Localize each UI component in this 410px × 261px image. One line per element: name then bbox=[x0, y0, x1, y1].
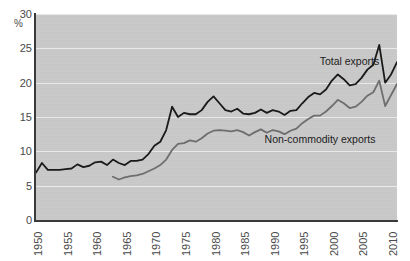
x-tick-label: 1970 bbox=[150, 232, 162, 256]
x-tick-label: 1960 bbox=[91, 232, 103, 256]
x-tick-label: 1955 bbox=[62, 232, 74, 256]
x-tick-label: 2005 bbox=[357, 232, 369, 256]
x-tick-label: 1975 bbox=[180, 232, 192, 256]
series-label: Non-commodity exports bbox=[265, 133, 376, 145]
x-tick-label: 2000 bbox=[328, 232, 340, 256]
x-tick-label: 1980 bbox=[210, 232, 222, 256]
y-tick-label: 30 bbox=[2, 9, 32, 20]
series-label: Total exports bbox=[320, 55, 380, 67]
x-tick-label: 1985 bbox=[239, 232, 251, 256]
plot-area bbox=[36, 14, 397, 220]
x-tick-label: 1965 bbox=[121, 232, 133, 256]
x-tick-label: 1950 bbox=[32, 232, 44, 256]
x-axis-line bbox=[34, 220, 398, 222]
y-tick-label: 0 bbox=[2, 215, 32, 226]
x-tick-label: 2010 bbox=[387, 232, 399, 256]
y-tick-label: 20 bbox=[2, 78, 32, 89]
chart-container: % 302520151050 1950195519601965197019751… bbox=[0, 0, 410, 261]
x-tick-label: 1995 bbox=[298, 232, 310, 256]
y-tick-label: 15 bbox=[2, 112, 32, 123]
y-tick-label: 25 bbox=[2, 43, 32, 54]
series-line bbox=[113, 81, 397, 180]
y-tick-label: 10 bbox=[2, 146, 32, 157]
x-axis-tick-labels: 1950195519601965197019751980198519901995… bbox=[36, 224, 397, 261]
series-lines bbox=[36, 14, 397, 220]
y-axis-tick-labels: 302520151050 bbox=[0, 0, 32, 261]
x-tick-label: 1990 bbox=[269, 232, 281, 256]
y-tick-label: 5 bbox=[2, 181, 32, 192]
